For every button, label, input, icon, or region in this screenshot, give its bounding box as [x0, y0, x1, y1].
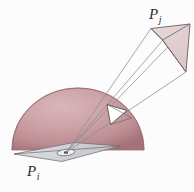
label-p-j-base: P — [149, 6, 158, 22]
far-surface-patch — [151, 24, 190, 72]
label-p-i-base: P — [27, 163, 36, 179]
label-p-i-subscript: i — [36, 171, 39, 182]
dome-surface — [12, 88, 144, 150]
label-p-j-subscript: j — [158, 14, 161, 25]
label-p-i: Pi — [27, 164, 39, 182]
label-p-j: Pj — [149, 7, 161, 25]
hemisphere-dome — [12, 88, 144, 150]
far-patch-polygon — [151, 24, 190, 72]
figure-container: Pj Pi — [0, 0, 194, 192]
